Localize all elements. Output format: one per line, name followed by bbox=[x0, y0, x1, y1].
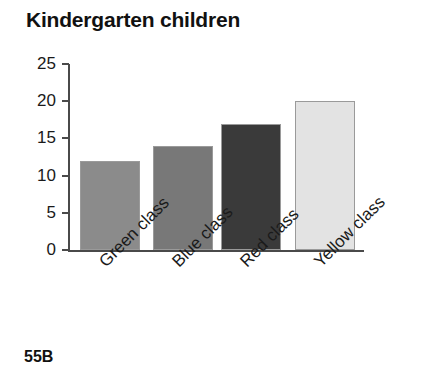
plot-area: 0510152025 Green classBlue classRed clas… bbox=[0, 0, 434, 382]
bar-series bbox=[0, 0, 434, 382]
footer-code: 55B bbox=[24, 348, 53, 366]
chart-page: Kindergarten children 0510152025 Green c… bbox=[0, 0, 434, 382]
